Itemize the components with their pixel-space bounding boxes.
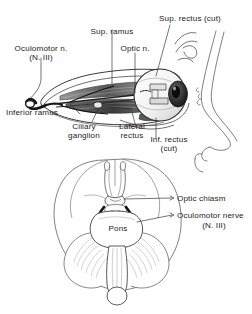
label-inf-rectus-cut-line2: (cut)	[161, 144, 178, 153]
orbital-bone	[175, 33, 197, 62]
label-inf-rectus-cut: Inf. rectus (cut)	[140, 135, 198, 154]
label-inf-rectus-cut-line1: Inf. rectus	[150, 135, 187, 144]
label-oculomotor-nerve-sub: (N. III)	[186, 221, 242, 230]
label-ciliary-ganglion-line2: ganglion	[68, 131, 100, 140]
label-oculomotor-n-line2: (N. III)	[29, 53, 53, 62]
face-profile	[195, 31, 237, 172]
label-ciliary-ganglion: Ciliary ganglion	[58, 122, 110, 141]
label-ciliary-ganglion-line1: Ciliary	[72, 122, 96, 131]
label-sup-rectus-cut: Sup. rectus (cut)	[135, 14, 245, 23]
label-sup-ramus: Sup. ramus	[76, 27, 148, 36]
label-lateral-rectus-line1: Lateral	[119, 122, 145, 131]
label-oculomotor-n-line1: Oculomotor n.	[15, 44, 68, 53]
label-oculomotor-nerve-line1: Oculomotor nerve	[177, 211, 244, 220]
anatomy-figure: Oculomotor n. (N. III) Sup. ramus Optic …	[0, 0, 252, 314]
label-oculomotor-n: Oculomotor n. (N. III)	[8, 44, 74, 63]
label-optic-chiasm: Optic chiasm	[177, 194, 249, 203]
label-pons: Pons	[100, 224, 136, 233]
label-inferior-ramus: Inferior ramus	[6, 108, 80, 117]
label-optic-n: Optic n.	[112, 44, 158, 53]
label-oculomotor-nerve: Oculomotor nerve	[177, 211, 252, 220]
